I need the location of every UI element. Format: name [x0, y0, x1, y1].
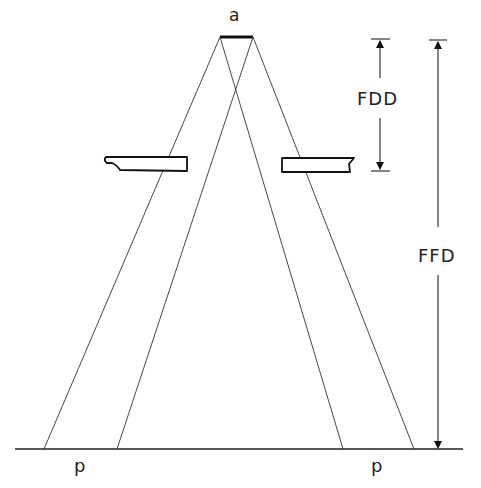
- left-collimator: [105, 157, 187, 171]
- ffd-arrow-down-icon: [434, 441, 442, 449]
- ffd-label: FFD: [418, 245, 456, 266]
- ffd-dimension: [429, 40, 447, 447]
- fdd-label: FDD: [357, 88, 398, 109]
- ffd-arrow-up-icon: [434, 41, 442, 49]
- focal-spot-label: a: [229, 5, 239, 25]
- penumbra-right-label: p: [371, 455, 382, 476]
- penumbra-left-label: p: [74, 455, 85, 476]
- right-collimator: [282, 158, 354, 172]
- xray-geometry-diagram: a FDD FFD p p: [0, 0, 481, 488]
- fdd-arrow-up-icon: [376, 40, 384, 48]
- fdd-arrow-down-icon: [376, 162, 384, 170]
